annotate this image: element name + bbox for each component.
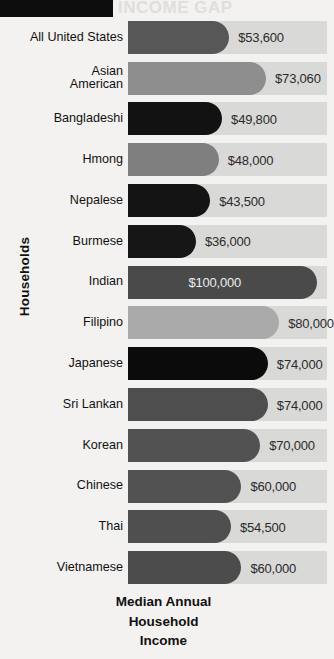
bar-category-label: Hmong (0, 153, 128, 167)
bar-row: Sri Lankan$74,000 (0, 384, 327, 425)
bar-track: $53,600 (128, 21, 327, 54)
caption-line-3: Income (0, 631, 327, 651)
bar-value-label: $73,060 (275, 71, 321, 86)
bar-category-label: Korean (0, 439, 128, 453)
bar-fill (128, 225, 196, 258)
bar-row: All United States$53,600 (0, 17, 327, 58)
bar-fill (128, 143, 219, 176)
bar-category-label: Chinese (0, 479, 128, 493)
bar-row: Nepalese$43,500 (0, 180, 327, 221)
bar-track: $80,000 (128, 306, 327, 339)
bar-value-label: $74,000 (277, 356, 323, 371)
bar-value-label: $49,800 (231, 111, 277, 126)
bar-category-label: Japanese (0, 357, 128, 371)
bar-value-label: $74,000 (277, 397, 323, 412)
bar-value-label: $60,000 (250, 560, 296, 575)
bar-fill (128, 62, 266, 95)
bar-value-label: $54,500 (240, 519, 286, 534)
bar-value-label: $36,000 (205, 234, 251, 249)
bar-row: Indian$100,000 (0, 262, 327, 303)
bar-fill (128, 470, 241, 503)
bar-rows: All United States$53,600Asian American$7… (0, 17, 327, 588)
bar-fill (128, 510, 231, 543)
caption-line-2: Household (0, 612, 327, 632)
banner-title: INCOME GAP (118, 0, 327, 17)
top-banner-block (0, 0, 113, 17)
bar-chart: Households All United States$53,600Asian… (0, 17, 327, 588)
bar-fill (128, 306, 279, 339)
bar-fill (128, 102, 222, 135)
bar-category-label: Bangladeshi (0, 112, 128, 126)
bar-fill (128, 388, 268, 421)
bar-track: $60,000 (128, 470, 327, 503)
bar-value-label: $70,000 (269, 438, 315, 453)
bar-value-label: $80,000 (288, 315, 334, 330)
bar-category-label: Filipino (0, 316, 128, 330)
bar-row: Asian American$73,060 (0, 58, 327, 99)
bar-track: $49,800 (128, 102, 327, 135)
caption-line-1: Median Annual (0, 592, 327, 612)
bar-value-label: $53,600 (238, 30, 284, 45)
bar-track: $60,000 (128, 551, 327, 584)
bar-value-label: $100,000 (189, 275, 242, 290)
bar-value-label: $60,000 (250, 479, 296, 494)
bar-fill (128, 21, 229, 54)
bar-row: Burmese$36,000 (0, 221, 327, 262)
bar-category-label: Indian (0, 275, 128, 289)
bar-row: Filipino$80,000 (0, 303, 327, 344)
bar-track: $74,000 (128, 388, 327, 421)
bar-fill (128, 429, 260, 462)
bar-track: $70,000 (128, 429, 327, 462)
bar-track: $36,000 (128, 225, 327, 258)
bar-fill (128, 551, 241, 584)
bar-track: $73,060 (128, 62, 327, 95)
bar-track: $48,000 (128, 143, 327, 176)
bar-category-label: Thai (0, 520, 128, 534)
bar-track: $74,000 (128, 347, 327, 380)
bar-value-label: $43,500 (219, 193, 265, 208)
bar-row: Korean$70,000 (0, 425, 327, 466)
bar-category-label: Vietnamese (0, 561, 128, 575)
bar-row: Bangladeshi$49,800 (0, 99, 327, 140)
bar-category-label: Burmese (0, 235, 128, 249)
bar-row: Thai$54,500 (0, 507, 327, 548)
bar-row: Hmong$48,000 (0, 139, 327, 180)
bar-row: Chinese$60,000 (0, 466, 327, 507)
bar-fill (128, 184, 210, 217)
bar-category-label: Asian American (0, 65, 128, 92)
bar-value-label: $48,000 (228, 152, 274, 167)
bar-category-label: Sri Lankan (0, 398, 128, 412)
bar-track: $43,500 (128, 184, 327, 217)
bar-track: $100,000 (128, 266, 327, 299)
bar-fill (128, 347, 268, 380)
bar-row: Vietnamese$60,000 (0, 547, 327, 588)
chart-caption: Median Annual Household Income (0, 592, 327, 651)
bar-category-label: Nepalese (0, 194, 128, 208)
bar-row: Japanese$74,000 (0, 343, 327, 384)
bar-track: $54,500 (128, 510, 327, 543)
bar-category-label: All United States (0, 31, 128, 45)
